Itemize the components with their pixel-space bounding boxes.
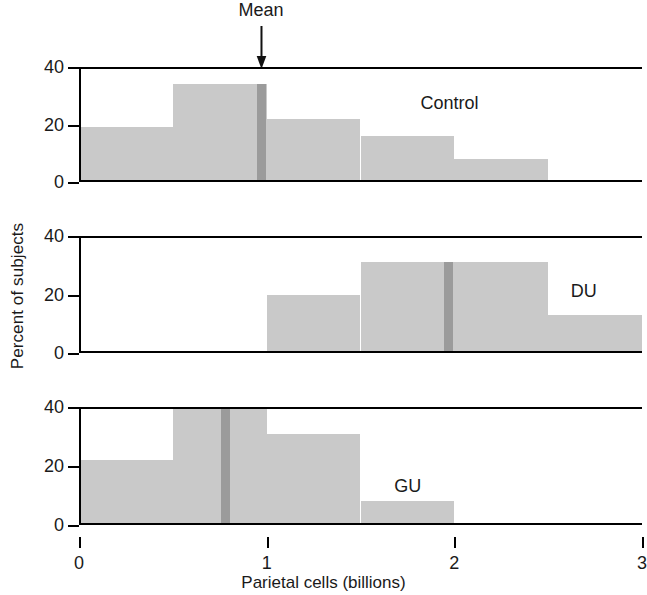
y-axis-tick — [68, 407, 79, 409]
panel-label-gu: GU — [394, 476, 421, 497]
y-axis-tick-label: 40 — [44, 57, 64, 78]
x-axis-tick — [642, 537, 644, 548]
y-axis-tick — [68, 353, 79, 355]
y-axis-tick-label: 0 — [54, 343, 64, 364]
histogram-figure: Percent of subjects Mean 02040Control020… — [0, 0, 647, 595]
y-axis-tick — [68, 182, 79, 184]
panel-label-control: Control — [421, 93, 479, 114]
y-axis-tick-label: 40 — [44, 226, 64, 247]
x-axis-tick — [267, 537, 269, 548]
panel-du: 02040DU — [79, 236, 642, 353]
y-axis-tick-label: 0 — [54, 172, 64, 193]
panel-control: 02040Control — [79, 67, 642, 182]
y-axis-tick-label: 20 — [44, 284, 64, 305]
panel-label-du: DU — [571, 281, 597, 302]
x-axis-tick-label: 3 — [637, 553, 647, 574]
plot-frame — [79, 67, 642, 182]
y-axis-tick-label: 20 — [44, 456, 64, 477]
mean-annotation-label: Mean — [239, 0, 284, 21]
plot-frame — [79, 236, 642, 353]
mean-annotation: Mean — [239, 0, 284, 21]
mean-arrow-icon — [254, 26, 268, 70]
x-axis-tick — [454, 537, 456, 548]
y-axis-tick — [68, 125, 79, 127]
y-axis-tick-label: 20 — [44, 114, 64, 135]
x-axis-tick — [79, 537, 81, 548]
y-axis-title: Percent of subjects — [8, 196, 28, 396]
x-axis-tick-label: 0 — [74, 553, 84, 574]
y-axis-tick-label: 0 — [54, 515, 64, 536]
x-axis-tick-label: 1 — [262, 553, 272, 574]
plot-frame — [79, 407, 642, 525]
x-axis-title: Parietal cells (billions) — [0, 573, 647, 593]
y-axis-tick-label: 40 — [44, 397, 64, 418]
x-axis-tick-label: 2 — [449, 553, 459, 574]
y-axis-tick — [68, 236, 79, 238]
y-axis-tick — [68, 466, 79, 468]
y-axis-tick — [68, 295, 79, 297]
panel-gu: 02040GU — [79, 407, 642, 525]
y-axis-tick — [68, 525, 79, 527]
y-axis-tick — [68, 67, 79, 69]
